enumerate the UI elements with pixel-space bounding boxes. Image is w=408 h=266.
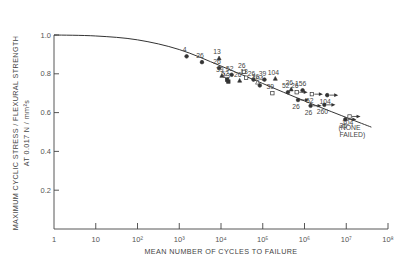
y-tick-label: 1.0	[41, 31, 51, 40]
x-tick-label: 1	[52, 235, 56, 244]
y-tick-label: 0.6	[41, 108, 51, 117]
y-axis-title-line2: AT 0.017 N / mm²s	[21, 20, 32, 246]
point-label: 26	[234, 71, 242, 78]
data-point: 104	[268, 69, 280, 81]
axes	[54, 35, 388, 229]
point-label: 4	[183, 46, 187, 53]
point-label: 156	[295, 80, 307, 87]
x-tick-label: 10²	[132, 235, 143, 244]
data-point: 26	[234, 71, 242, 83]
data-point: 26	[196, 52, 204, 64]
data-points: 4261326523952132613262626391041043952262…	[183, 46, 361, 129]
x-tick-label: 10⁵	[257, 235, 268, 244]
x-tick-label: 10	[92, 235, 100, 244]
point-label: 26	[305, 109, 313, 116]
x-tick-label: 10⁶	[299, 235, 310, 244]
data-point: 104	[252, 75, 264, 87]
point-label: 104	[268, 69, 280, 76]
x-tick-label: 10⁷	[341, 235, 352, 244]
data-point: 104	[320, 93, 339, 105]
fatigue-chart: 11010²10³10⁴10⁵10⁶10⁷10⁸1.00.80.60.40.2 …	[0, 0, 408, 266]
y-axis-title-line1: MAXIMUM CYCLIC STRESS / FLEXURAL STRENGT…	[10, 20, 21, 246]
annotation-text: FAILED)	[340, 131, 366, 139]
point-label: 13	[213, 48, 221, 55]
point-label: 104	[252, 75, 264, 82]
data-point: 39	[267, 83, 275, 95]
annotations: (NONEFAILED)	[339, 124, 366, 139]
point-label: 26	[213, 58, 221, 65]
point-label: 26	[292, 103, 300, 110]
point-label: 39	[267, 83, 275, 90]
y-tick-label: 0.8	[41, 69, 51, 78]
x-tick-label: 10⁸	[382, 235, 394, 244]
point-label: 260	[317, 108, 329, 115]
x-axis-title: MEAN NUMBER OF CYCLES TO FAILURE	[54, 247, 388, 256]
y-tick-label: 0.2	[41, 186, 51, 195]
x-tick-label: 10³	[174, 235, 185, 244]
point-label: 26	[196, 52, 204, 59]
point-label: 13	[223, 72, 231, 79]
y-axis-title: MAXIMUM CYCLIC STRESS / FLEXURAL STRENGT…	[10, 20, 32, 246]
x-tick-label: 10⁴	[215, 235, 227, 244]
data-point: 13	[223, 72, 231, 84]
y-tick-label: 0.4	[41, 147, 51, 156]
